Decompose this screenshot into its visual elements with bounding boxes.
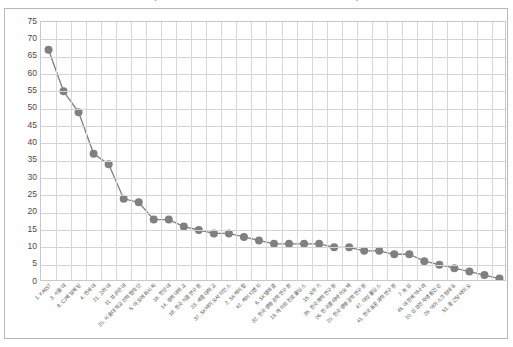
gridline-vertical <box>146 22 147 280</box>
data-point-marker <box>150 216 158 224</box>
line-series <box>41 22 506 281</box>
y-axis-tick-label: 40 <box>7 138 37 147</box>
data-point-marker <box>240 233 248 241</box>
gridline-horizontal <box>41 265 505 266</box>
data-point-marker <box>90 150 98 158</box>
y-axis-tick-label: 50 <box>7 103 37 112</box>
gridline-horizontal <box>41 247 505 248</box>
gridline-vertical <box>357 22 358 280</box>
gridline-horizontal <box>41 143 505 144</box>
chart-frame: 757065605550454035302520151050 1. KAIST3… <box>4 8 508 339</box>
data-point-marker <box>495 275 503 281</box>
gridline-vertical <box>312 22 313 280</box>
y-axis-tick-label: 0 <box>7 277 37 286</box>
gridline-vertical <box>71 22 72 280</box>
gridline-vertical <box>176 22 177 280</box>
gridline-vertical <box>86 22 87 280</box>
data-point-marker <box>45 46 53 54</box>
gridline-horizontal <box>41 126 505 127</box>
plot-area <box>40 21 506 281</box>
gridline-horizontal <box>41 230 505 231</box>
y-axis-tick-label: 65 <box>7 51 37 60</box>
gridline-vertical <box>131 22 132 280</box>
gridline-horizontal <box>41 74 505 75</box>
data-point-marker <box>465 268 473 276</box>
y-axis-tick-label: 45 <box>7 121 37 130</box>
gridline-vertical <box>477 22 478 280</box>
data-point-marker <box>390 250 398 258</box>
y-axis-tick-label: 5 <box>7 259 37 268</box>
gridline-vertical <box>372 22 373 280</box>
gridline-vertical <box>462 22 463 280</box>
gridline-vertical <box>342 22 343 280</box>
gridline-vertical <box>492 22 493 280</box>
y-axis-tick-label: 75 <box>7 17 37 26</box>
gridline-horizontal <box>41 39 505 40</box>
gridline-vertical <box>387 22 388 280</box>
data-point-marker <box>405 250 413 258</box>
gridline-vertical <box>327 22 328 280</box>
y-axis-tick-label: 20 <box>7 207 37 216</box>
gridline-vertical <box>221 22 222 280</box>
gridline-vertical <box>447 22 448 280</box>
gridline-vertical <box>266 22 267 280</box>
gridline-vertical <box>206 22 207 280</box>
x-axis-tick-label: 51. 종근당바이오 <box>441 282 472 313</box>
gridline-horizontal <box>41 161 505 162</box>
gridline-vertical <box>297 22 298 280</box>
gridline-vertical <box>402 22 403 280</box>
gridline-horizontal <box>41 178 505 179</box>
gridline-vertical <box>101 22 102 280</box>
data-point-marker <box>165 216 173 224</box>
gridline-horizontal <box>41 109 505 110</box>
y-axis-tick-label: 55 <box>7 86 37 95</box>
data-point-marker <box>135 198 143 206</box>
chart-title: ( 구분자료 기관별 연구개발과제 건수 상위 분포 현황 ) <box>0 0 513 2</box>
y-axis-tick-label: 15 <box>7 225 37 234</box>
y-axis-tick-label: 70 <box>7 34 37 43</box>
gridline-vertical <box>236 22 237 280</box>
gridline-vertical <box>116 22 117 280</box>
y-axis-tick-label: 10 <box>7 242 37 251</box>
y-axis-tick-label: 35 <box>7 155 37 164</box>
data-point-marker <box>480 271 488 279</box>
chart-screenshot: ( 구분자료 기관별 연구개발과제 건수 상위 분포 현황 ) 75706560… <box>0 0 513 347</box>
gridline-vertical <box>417 22 418 280</box>
gridline-vertical <box>432 22 433 280</box>
gridline-vertical <box>282 22 283 280</box>
y-axis-tick-label: 25 <box>7 190 37 199</box>
y-axis-tick-label: 30 <box>7 173 37 182</box>
gridline-vertical <box>56 22 57 280</box>
gridline-horizontal <box>41 91 505 92</box>
gridline-vertical <box>251 22 252 280</box>
y-axis-tick-label: 60 <box>7 69 37 78</box>
gridline-vertical <box>161 22 162 280</box>
data-point-marker <box>255 236 263 244</box>
gridline-horizontal <box>41 213 505 214</box>
gridline-vertical <box>191 22 192 280</box>
gridline-horizontal <box>41 195 505 196</box>
x-axis: 1. KAIST3. 서울대8. CJ제일제당4. 연세대21. 고려대11. … <box>40 282 506 347</box>
gridline-horizontal <box>41 57 505 58</box>
y-axis: 757065605550454035302520151050 <box>5 21 37 281</box>
